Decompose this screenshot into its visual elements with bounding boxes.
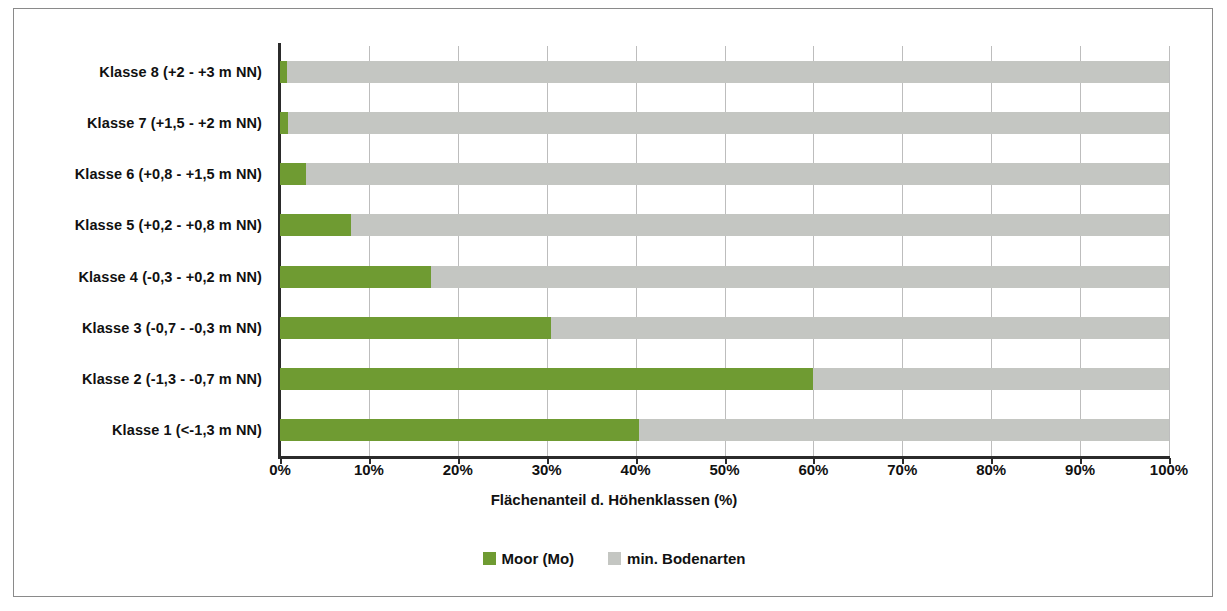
x-axis-tick-label: 100% [1150, 461, 1188, 478]
gridline [902, 46, 903, 456]
bar-segment[interactable] [280, 317, 551, 339]
y-axis-category-label: Klasse 3 (-0,7 - -0,3 m NN) [82, 318, 262, 338]
bar-segment[interactable] [280, 214, 351, 236]
bar-row[interactable] [280, 61, 1169, 83]
legend-label: Moor (Mo) [502, 550, 574, 567]
x-axis-tick-label: 80% [976, 461, 1006, 478]
plot-area [280, 46, 1169, 456]
bar-row[interactable] [280, 112, 1169, 134]
gridline [1169, 46, 1170, 456]
legend-item[interactable]: min. Bodenarten [608, 550, 745, 567]
bar-segment[interactable] [280, 61, 287, 83]
x-axis-tick-label: 30% [532, 461, 562, 478]
legend-label: min. Bodenarten [627, 550, 745, 567]
chart-plot-wrapper: Klasse 8 (+2 - +3 m NN)Klasse 7 (+1,5 - … [14, 9, 1214, 598]
bar-segment[interactable] [287, 61, 1169, 83]
bar-segment[interactable] [551, 317, 1169, 339]
chart-legend: Moor (Mo)min. Bodenarten [14, 550, 1214, 567]
bar-segment[interactable] [813, 368, 1169, 390]
y-axis-category-label: Klasse 4 (-0,3 - +0,2 m NN) [78, 267, 262, 287]
x-axis-tick-label: 70% [887, 461, 917, 478]
bar-row[interactable] [280, 266, 1169, 288]
gridline [458, 46, 459, 456]
gridline [725, 46, 726, 456]
bar-segment[interactable] [280, 368, 813, 390]
gridline [1080, 46, 1081, 456]
x-axis-tick-label: 20% [443, 461, 473, 478]
bar-segment[interactable] [280, 112, 288, 134]
bar-row[interactable] [280, 419, 1169, 441]
bar-row[interactable] [280, 163, 1169, 185]
x-axis-tick-labels: 0%10%20%30%40%50%60%70%80%90%100% [280, 461, 1169, 485]
bar-segment[interactable] [288, 112, 1169, 134]
bar-row[interactable] [280, 317, 1169, 339]
y-axis-category-label: Klasse 5 (+0,2 - +0,8 m NN) [75, 215, 262, 235]
y-axis-category-label: Klasse 7 (+1,5 - +2 m NN) [87, 113, 262, 133]
bar-segment[interactable] [431, 266, 1169, 288]
bar-segment[interactable] [280, 419, 639, 441]
y-axis-category-label: Klasse 8 (+2 - +3 m NN) [99, 62, 262, 82]
bar-segment[interactable] [280, 163, 306, 185]
bar-segment[interactable] [306, 163, 1169, 185]
gridline [547, 46, 548, 456]
x-axis-tick-label: 10% [354, 461, 384, 478]
y-axis-category-labels: Klasse 8 (+2 - +3 m NN)Klasse 7 (+1,5 - … [22, 46, 270, 456]
gridline [369, 46, 370, 456]
legend-item[interactable]: Moor (Mo) [483, 550, 574, 567]
x-axis-tick-label: 50% [709, 461, 739, 478]
gridline [991, 46, 992, 456]
x-axis-tick-label: 0% [269, 461, 291, 478]
bar-row[interactable] [280, 214, 1169, 236]
y-axis-category-label: Klasse 6 (+0,8 - +1,5 m NN) [75, 164, 262, 184]
gridline [636, 46, 637, 456]
legend-swatch-icon [608, 552, 621, 565]
legend-swatch-icon [483, 552, 496, 565]
bar-segment[interactable] [351, 214, 1169, 236]
y-axis-line [278, 43, 281, 457]
y-axis-category-label: Klasse 1 (<-1,3 m NN) [112, 420, 262, 440]
x-axis-tick-label: 40% [621, 461, 651, 478]
x-axis-title: Flächenanteil d. Höhenklassen (%) [14, 491, 1214, 508]
bar-segment[interactable] [280, 266, 431, 288]
bar-row[interactable] [280, 368, 1169, 390]
gridline [813, 46, 814, 456]
bar-segment[interactable] [639, 419, 1169, 441]
x-axis-tick-label: 90% [1065, 461, 1095, 478]
y-axis-category-label: Klasse 2 (-1,3 - -0,7 m NN) [82, 369, 262, 389]
x-axis-tick-label: 60% [798, 461, 828, 478]
chart-figure: Klasse 8 (+2 - +3 m NN)Klasse 7 (+1,5 - … [13, 8, 1213, 597]
